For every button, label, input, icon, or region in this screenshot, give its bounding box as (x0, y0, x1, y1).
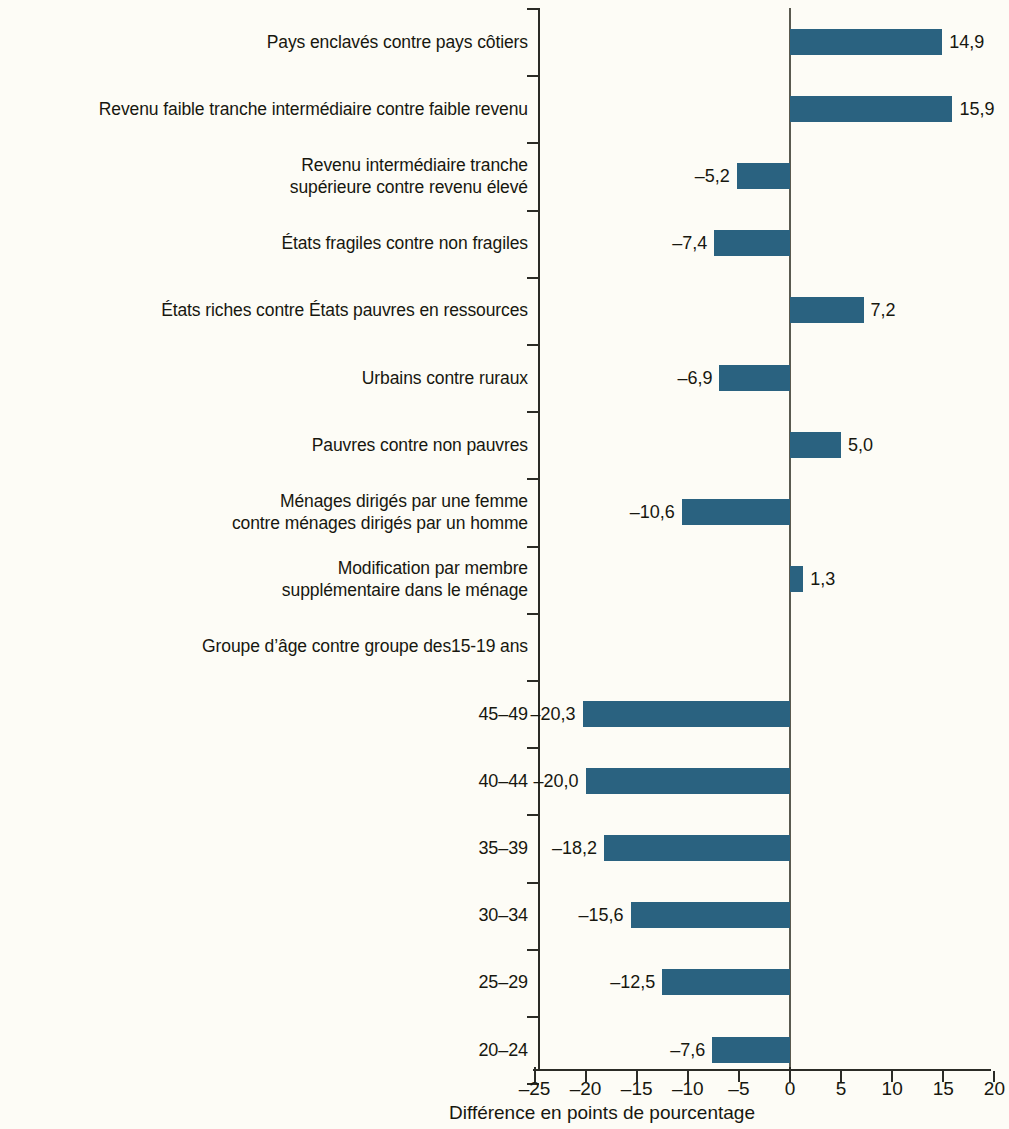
row-label: Groupe d’âge contre groupe des15-19 ans (202, 635, 528, 657)
bar-value-label: –6,9 (677, 365, 712, 391)
bar-value-label: 1,3 (810, 566, 835, 592)
bar (737, 163, 790, 189)
bar (604, 835, 790, 861)
bar-row: Pays enclavés contre pays côtiers14,9 (0, 8, 1000, 75)
bar (714, 230, 790, 256)
x-axis-title: Différence en points de pourcentage (0, 1102, 1000, 1124)
row-label: 35–39 (478, 837, 528, 859)
bar-row: 40–44–20,0 (0, 747, 1000, 814)
row-label: 30–34 (478, 904, 528, 926)
bar-value-label: –7,6 (670, 1037, 705, 1063)
bar-row: Ménages dirigés par une femme contre mén… (0, 478, 1000, 545)
bar (662, 969, 790, 995)
bar-value-label: –10,6 (630, 499, 675, 525)
bar-value-label: 15,9 (959, 96, 994, 122)
bar-value-label: –20,0 (534, 768, 579, 794)
bar (790, 297, 864, 323)
bar-row: 20–24–7,6 (0, 1016, 1000, 1083)
bar-value-label: –12,5 (610, 969, 655, 995)
bar-row: Modification par membre supplémentaire d… (0, 546, 1000, 613)
row-label: États fragiles contre non fragiles (281, 232, 528, 254)
row-label: États riches contre États pauvres en res… (161, 299, 528, 321)
bar-row: États riches contre États pauvres en res… (0, 277, 1000, 344)
bar-row: Urbains contre ruraux–6,9 (0, 344, 1000, 411)
bar-value-label: –18,2 (552, 835, 597, 861)
bar-value-label: 14,9 (949, 29, 984, 55)
row-label: Modification par membre supplémentaire d… (282, 557, 528, 601)
bar-row: 45–49–20,3 (0, 680, 1000, 747)
bar (790, 432, 841, 458)
bar-value-label: 7,2 (871, 297, 896, 323)
bar (790, 29, 942, 55)
bar-row: 25–29–12,5 (0, 949, 1000, 1016)
row-label: Ménages dirigés par une femme contre mén… (232, 490, 528, 534)
row-label: 40–44 (478, 770, 528, 792)
bar (712, 1037, 790, 1063)
bar (790, 96, 952, 122)
bar (631, 902, 790, 928)
bar-row: États fragiles contre non fragiles–7,4 (0, 210, 1000, 277)
x-axis-tick-label: 20 (964, 1078, 1009, 1100)
row-label: Revenu intermédiaire tranche supérieure … (290, 154, 528, 198)
bar (583, 701, 790, 727)
bar-row: Revenu intermédiaire tranche supérieure … (0, 142, 1000, 209)
row-label: 25–29 (478, 971, 528, 993)
bar-row: Revenu faible tranche intermédiaire cont… (0, 75, 1000, 142)
bar-row: 35–39–18,2 (0, 814, 1000, 881)
bar (586, 768, 790, 794)
plot-area: Pays enclavés contre pays côtiers14,9Rev… (0, 0, 1000, 1075)
row-label: Pauvres contre non pauvres (312, 434, 528, 456)
bar-value-label: 5,0 (848, 432, 873, 458)
row-label: Urbains contre ruraux (362, 367, 528, 389)
bar-value-label: –5,2 (695, 163, 730, 189)
row-label: 20–24 (478, 1039, 528, 1061)
bar-value-label: –20,3 (531, 701, 576, 727)
bar-value-label: –7,4 (672, 230, 707, 256)
bar-row: 30–34–15,6 (0, 882, 1000, 949)
bar (719, 365, 790, 391)
bar-row: Groupe d’âge contre groupe des15-19 ans (0, 613, 1000, 680)
row-label: Revenu faible tranche intermédiaire cont… (99, 98, 528, 120)
bar-value-label: –15,6 (579, 902, 624, 928)
bar (682, 499, 790, 525)
x-axis-title-text: Différence en points de pourcentage (449, 1102, 755, 1124)
row-label: 45–49 (478, 703, 528, 725)
bar-row: Pauvres contre non pauvres5,0 (0, 411, 1000, 478)
bar (790, 566, 803, 592)
row-label: Pays enclavés contre pays côtiers (267, 31, 528, 53)
